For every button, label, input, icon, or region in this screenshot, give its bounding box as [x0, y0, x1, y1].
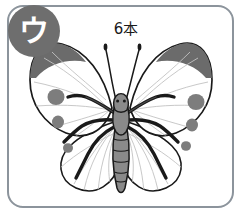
wing-spot-left-2: [52, 116, 64, 129]
eye-right: [123, 100, 126, 103]
option-badge: ウ: [8, 5, 60, 57]
wing-spot-left-1: [48, 89, 65, 105]
antenna-tip-left: [104, 44, 108, 51]
wing-spot-left-3: [63, 143, 73, 153]
wing-spot-right-3: [181, 141, 191, 151]
eye-left: [116, 100, 119, 103]
badge-letter: ウ: [8, 5, 60, 57]
antennae-count-label: 6本: [103, 22, 149, 37]
wing-spot-right-1: [188, 94, 205, 110]
wing-spot-right-2: [186, 119, 198, 132]
antenna-tip-right: [138, 44, 142, 51]
abdomen: [113, 128, 129, 193]
illustration-card: 6本 ウ: [0, 0, 243, 218]
head: [114, 94, 129, 113]
